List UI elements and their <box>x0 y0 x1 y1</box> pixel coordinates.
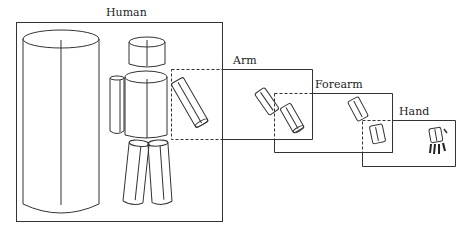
forearm-box <box>275 94 393 153</box>
label-hand: Hand <box>399 106 429 118</box>
head-cylinder <box>129 37 165 67</box>
human-body-cylinder <box>23 30 99 213</box>
torso-cylinder <box>125 71 167 138</box>
arm-selection-dashed <box>172 70 223 140</box>
left-leg-cylinder <box>123 139 150 205</box>
right-arm-cylinder <box>171 77 209 128</box>
diagram-canvas: Human Arm Forearm Hand <box>0 0 472 235</box>
label-arm: Arm <box>233 55 257 67</box>
right-leg-cylinder <box>148 139 172 205</box>
arm-box <box>223 70 313 140</box>
label-human: Human <box>106 7 147 19</box>
left-arm-cylinder <box>110 76 124 134</box>
hand-icon <box>429 127 447 154</box>
label-forearm: Forearm <box>315 79 363 91</box>
human-box <box>17 23 223 222</box>
